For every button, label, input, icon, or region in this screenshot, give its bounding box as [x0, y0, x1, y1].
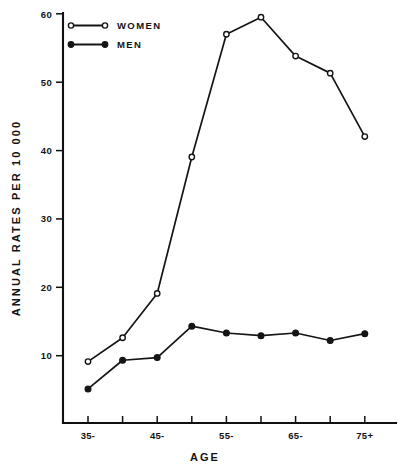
data-point-men-35-	[85, 386, 91, 392]
data-point-men-60-	[258, 333, 264, 339]
line-chart: 10 20 30 40 50 60 35- 45- 55- 65- 75+ AG…	[0, 0, 408, 467]
data-point-men-50-	[189, 323, 195, 329]
y-axis-title: ANNUAL RATES PER 10 000	[10, 120, 22, 316]
data-point-women-75+	[362, 134, 367, 139]
data-point-women-50-	[189, 154, 194, 159]
x-axis-title: AGE	[190, 451, 220, 463]
legend-marker-men-right	[102, 42, 108, 48]
data-point-women-60-	[258, 15, 263, 20]
legend-label-men: MEN	[117, 39, 142, 50]
data-point-women-35-	[85, 359, 90, 364]
x-tick-label-35: 35-	[81, 430, 96, 441]
data-point-men-65-	[293, 330, 299, 336]
y-tick-label-40: 40	[41, 145, 52, 156]
x-tick-label-55: 55-	[219, 430, 234, 441]
legend-marker-women-right	[102, 23, 107, 28]
y-tick-label-10: 10	[41, 350, 52, 361]
y-tick-label-50: 50	[41, 77, 52, 88]
series-line-women	[88, 17, 365, 361]
data-point-women-40-	[120, 335, 125, 340]
chart-legend: WOMEN MEN	[68, 20, 161, 50]
data-point-women-65-	[293, 53, 298, 58]
data-point-women-70-	[328, 70, 333, 75]
data-point-men-75+	[362, 331, 368, 337]
series-layer	[85, 15, 368, 392]
legend-label-women: WOMEN	[117, 20, 161, 31]
x-tick-label-75: 75+	[356, 430, 373, 441]
data-point-men-40-	[120, 357, 126, 363]
data-point-women-55-	[224, 32, 229, 37]
chart-figure: 10 20 30 40 50 60 35- 45- 55- 65- 75+ AG…	[0, 0, 408, 467]
legend-marker-women-left	[68, 23, 73, 28]
data-point-men-45-	[154, 355, 160, 361]
x-tick-label-65: 65-	[288, 430, 303, 441]
data-point-women-45-	[155, 291, 160, 296]
data-point-men-55-	[224, 330, 230, 336]
legend-marker-men-left	[68, 42, 74, 48]
y-tick-label-20: 20	[41, 282, 52, 293]
data-point-men-70-	[327, 338, 333, 344]
y-tick-label-60: 60	[41, 9, 52, 20]
x-tick-label-45: 45-	[150, 430, 165, 441]
y-tick-label-30: 30	[41, 213, 52, 224]
